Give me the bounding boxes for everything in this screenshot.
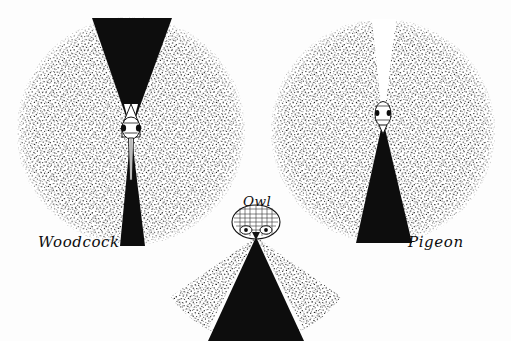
visual-fields-diagram: Woodcock Pigeon bbox=[0, 0, 511, 341]
owl-diagram: Owl bbox=[0, 0, 511, 341]
owl-head bbox=[232, 205, 280, 240]
visual-fields-figure: Woodcock Pigeon bbox=[0, 0, 511, 341]
owl-label: Owl bbox=[243, 193, 271, 209]
